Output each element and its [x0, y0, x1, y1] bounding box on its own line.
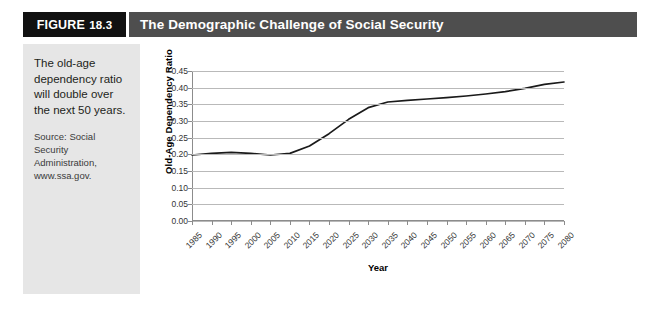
figure-caption-panel: The old-age dependency ratio will double… — [23, 44, 140, 294]
x-axis-tick-label: 2050 — [438, 230, 458, 250]
x-axis-tick-label: 2005 — [262, 230, 282, 250]
x-axis-tick — [388, 221, 389, 225]
y-axis-tick — [188, 121, 192, 122]
x-axis-tick — [466, 221, 467, 225]
y-axis-tick — [188, 154, 192, 155]
x-axis-tick — [290, 221, 291, 225]
y-axis-tick — [188, 104, 192, 105]
source-text: Source: Social Security Administration, … — [34, 130, 129, 182]
x-axis-tick-label: 2010 — [282, 230, 302, 250]
x-axis-tick — [349, 221, 350, 225]
x-axis-tick-label: 2020 — [321, 230, 341, 250]
gridline — [192, 138, 564, 139]
x-axis-tick — [231, 221, 232, 225]
x-axis-tick-label: 1990 — [203, 230, 223, 250]
figure-number-box: FIGURE 18.3 — [23, 12, 126, 37]
x-axis-tick-label: 2045 — [419, 230, 439, 250]
x-axis-tick — [309, 221, 310, 225]
y-axis-tick-label: 0.40 — [162, 83, 188, 93]
y-axis-tick-labels: 0.000.050.100.150.200.250.300.350.400.45 — [160, 44, 188, 294]
x-axis-tick-label: 2030 — [360, 230, 380, 250]
figure-18-3: FIGURE 18.3 The Demographic Challenge of… — [0, 0, 663, 316]
y-axis-tick-label: 0.25 — [162, 133, 188, 143]
x-axis-tick-label: 2080 — [556, 230, 576, 250]
figure-title-bar: FIGURE 18.3 The Demographic Challenge of… — [23, 12, 637, 37]
figure-number-word: FIGURE — [37, 18, 85, 32]
gridline — [192, 221, 564, 222]
x-axis-tick-label: 1995 — [223, 230, 243, 250]
y-axis-tick-label: 0.20 — [162, 149, 188, 159]
gridline — [192, 88, 564, 89]
caption-text: The old-age dependency ratio will double… — [34, 56, 129, 118]
x-axis-title: Year — [192, 262, 564, 273]
gridline — [192, 121, 564, 122]
gridline — [192, 104, 564, 105]
x-axis-tick-label: 2075 — [536, 230, 556, 250]
x-axis-tick-label: 2015 — [301, 230, 321, 250]
x-axis-tick-label: 2065 — [497, 230, 517, 250]
gridline — [192, 71, 564, 72]
x-axis-tick — [407, 221, 408, 225]
y-axis-tick — [188, 71, 192, 72]
y-axis-tick — [188, 188, 192, 189]
x-axis-tick — [427, 221, 428, 225]
x-axis-tick — [564, 221, 565, 225]
data-series-line — [192, 71, 564, 221]
y-axis-tick-label: 0.10 — [162, 183, 188, 193]
y-axis-tick-label: 0.35 — [162, 99, 188, 109]
x-axis-tick — [544, 221, 545, 225]
gridline — [192, 204, 564, 205]
x-axis-tick — [447, 221, 448, 225]
x-axis-tick-label: 2025 — [340, 230, 360, 250]
x-axis-tick — [270, 221, 271, 225]
gridline — [192, 171, 564, 172]
y-axis-tick-label: 0.45 — [162, 66, 188, 76]
x-axis-tick — [192, 221, 193, 225]
y-axis-tick-label: 0.30 — [162, 116, 188, 126]
x-axis-tick — [368, 221, 369, 225]
gridline — [192, 154, 564, 155]
x-axis-tick — [212, 221, 213, 225]
x-axis-tick-label: 2055 — [458, 230, 478, 250]
y-axis-tick-label: 0.00 — [162, 216, 188, 226]
x-axis-tick — [505, 221, 506, 225]
gridline — [192, 188, 564, 189]
line-chart: Old-Age Dependency Ratio 0.000.050.100.1… — [142, 44, 637, 294]
y-axis-tick — [188, 204, 192, 205]
x-axis-tick — [251, 221, 252, 225]
chart-panel: Old-Age Dependency Ratio 0.000.050.100.1… — [142, 44, 637, 294]
y-axis-tick — [188, 88, 192, 89]
y-axis-tick-label: 0.05 — [162, 199, 188, 209]
y-axis-tick-label: 0.15 — [162, 166, 188, 176]
figure-number-value: 18.3 — [89, 19, 112, 31]
y-axis-tick — [188, 171, 192, 172]
x-axis-tick — [329, 221, 330, 225]
x-axis-tick-label: 2035 — [379, 230, 399, 250]
x-axis-tick-label: 2070 — [516, 230, 536, 250]
x-axis-tick-label: 2000 — [242, 230, 262, 250]
plot-area: 1985199019952000200520102015202020252030… — [192, 71, 564, 221]
y-axis-tick — [188, 138, 192, 139]
x-axis-tick — [486, 221, 487, 225]
x-axis-tick-label: 2060 — [477, 230, 497, 250]
figure-title: The Demographic Challenge of Social Secu… — [129, 12, 637, 37]
x-axis-tick — [525, 221, 526, 225]
x-axis-tick-label: 2040 — [399, 230, 419, 250]
